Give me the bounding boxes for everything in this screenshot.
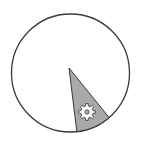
gear-icon: [79, 104, 96, 121]
pie-chart: [0, 0, 142, 146]
